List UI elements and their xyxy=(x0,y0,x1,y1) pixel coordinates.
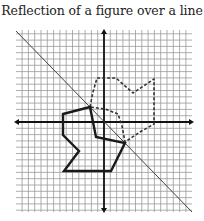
x-axis-right-arrow-icon xyxy=(189,119,194,125)
reflected-figure xyxy=(90,78,154,142)
y-axis-up-arrow-icon xyxy=(101,29,107,34)
coordinate-plane xyxy=(0,0,204,221)
x-axis-left-arrow-icon xyxy=(14,119,19,125)
